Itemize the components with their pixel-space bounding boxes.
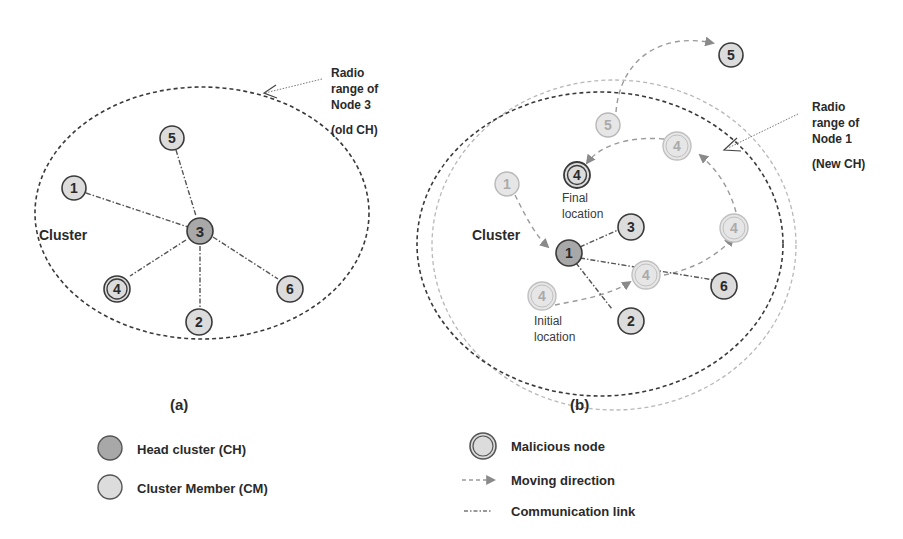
node-4-initial: 4: [528, 282, 556, 310]
radio-range-old: [417, 92, 783, 396]
svg-text:4: 4: [538, 288, 546, 304]
svg-text:Radio: Radio: [812, 100, 845, 114]
range-note-b: Radio range of Node 1 (New CH): [812, 100, 865, 171]
svg-text:Node 1: Node 1: [812, 132, 852, 146]
node-3-b: 3: [618, 214, 644, 240]
svg-text:Radio: Radio: [331, 66, 364, 80]
node-5-a: 5: [160, 126, 184, 150]
svg-text:4: 4: [730, 220, 738, 236]
svg-text:4: 4: [573, 167, 581, 183]
range-note-a: Radio range of Node 3 (old CH): [331, 66, 379, 137]
svg-text:Node 3: Node 3: [331, 98, 371, 112]
panel-a: Radio range of Node 3 (old CH) Cluster 5…: [35, 66, 379, 413]
svg-text:1: 1: [565, 245, 573, 261]
node-5-old-position: 5: [596, 113, 620, 137]
svg-text:Initial: Initial: [534, 314, 562, 328]
node-2-b: 2: [618, 308, 644, 334]
svg-text:Communication link: Communication link: [511, 504, 636, 519]
node-4-step3: 4: [663, 132, 691, 160]
svg-text:5: 5: [604, 117, 612, 133]
cluster-member-swatch-icon: [98, 475, 122, 499]
node-4-final-malicious: 4: [564, 162, 590, 188]
svg-text:1: 1: [70, 180, 78, 196]
svg-text:range of: range of: [331, 82, 379, 96]
cluster-label-b: Cluster: [472, 227, 521, 243]
svg-text:4: 4: [113, 281, 121, 297]
cluster-label-a: Cluster: [39, 227, 88, 243]
svg-text:5: 5: [727, 47, 735, 63]
caption-a: (a): [170, 396, 188, 413]
svg-text:Malicious node: Malicious node: [511, 439, 605, 454]
legend-moving: Moving direction: [462, 473, 615, 488]
node-3-head-a: 3: [187, 218, 213, 244]
node-2-a: 2: [186, 309, 212, 335]
svg-text:Moving direction: Moving direction: [511, 473, 615, 488]
legend-malicious: Malicious node: [470, 433, 605, 459]
svg-text:3: 3: [196, 223, 204, 240]
final-location-label: Final location: [562, 191, 603, 221]
radio-range-node3: [35, 87, 369, 339]
svg-text:4: 4: [642, 267, 650, 283]
svg-text:2: 2: [627, 313, 635, 329]
node-4-step2: 4: [720, 214, 748, 242]
initial-location-label: Initial location: [534, 314, 575, 344]
panel-b: Radio range of Node 1 (New CH) 5 1: [417, 41, 865, 413]
svg-text:5: 5: [168, 130, 176, 146]
head-cluster-swatch-icon: [98, 436, 122, 460]
legend-cluster-member: Cluster Member (CM): [98, 475, 268, 499]
cluster-diagram: Radio range of Node 3 (old CH) Cluster 5…: [0, 0, 903, 539]
node-1-a: 1: [62, 176, 86, 200]
svg-text:4: 4: [673, 138, 681, 154]
svg-text:Final: Final: [562, 191, 588, 205]
legend-link: Communication link: [464, 504, 636, 519]
svg-text:1: 1: [503, 176, 511, 192]
svg-text:location: location: [534, 330, 575, 344]
svg-text:Head cluster (CH): Head cluster (CH): [137, 442, 246, 457]
caption-b: (b): [570, 396, 589, 413]
svg-text:(old CH): (old CH): [331, 123, 378, 137]
svg-text:6: 6: [286, 281, 294, 297]
svg-text:location: location: [562, 207, 603, 221]
svg-text:range of: range of: [812, 116, 860, 130]
svg-text:6: 6: [720, 278, 728, 294]
malicious-node-swatch-icon: [470, 433, 496, 459]
range-pointer-b: [728, 114, 798, 148]
node-4-malicious-a: 4: [104, 276, 130, 302]
node-6-b: 6: [711, 273, 737, 299]
legend: Head cluster (CH) Cluster Member (CM) Ma…: [98, 433, 636, 519]
svg-text:Cluster Member (CM): Cluster Member (CM): [137, 481, 268, 496]
node-5-new-position: 5: [719, 43, 743, 67]
svg-text:2: 2: [195, 314, 203, 330]
legend-head-cluster: Head cluster (CH): [98, 436, 246, 460]
node-6-a: 6: [277, 276, 303, 302]
svg-text:(New CH): (New CH): [812, 157, 865, 171]
svg-text:3: 3: [627, 219, 635, 235]
node-1-head-b: 1: [556, 240, 582, 266]
node-1-old-position: 1: [495, 172, 519, 196]
node-4-step1: 4: [632, 261, 660, 289]
